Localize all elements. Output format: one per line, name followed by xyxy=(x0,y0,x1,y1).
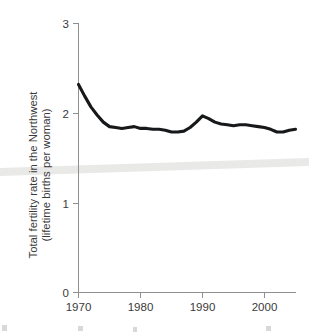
scan-artifact-speck-2 xyxy=(78,326,83,331)
fertility-rate-chart: 3 2 1 0 1970 1980 1990 2000 Total fertil… xyxy=(0,0,309,332)
x-tick-label-1990: 1990 xyxy=(190,301,216,313)
y-tick-label-3: 3 xyxy=(63,18,69,30)
y-tick-label-0: 0 xyxy=(63,287,69,299)
y-axis-title-line2: (lifetime births per woman) xyxy=(40,108,52,241)
x-tick-label-1970: 1970 xyxy=(66,301,92,313)
scan-artifact-speck-1 xyxy=(2,325,7,331)
x-tick-label-1980: 1980 xyxy=(128,301,154,313)
x-tick-label-2000: 2000 xyxy=(252,301,278,313)
scan-artifact-speck-3 xyxy=(133,327,137,332)
chart-canvas: 3 2 1 0 1970 1980 1990 2000 Total fertil… xyxy=(0,0,309,332)
fertility-rate-line xyxy=(79,84,296,132)
scan-artifact-speck-4 xyxy=(266,326,271,331)
y-tick-label-1: 1 xyxy=(63,198,69,210)
y-axis-title-line1: Total fertility rate in the Northwest xyxy=(27,91,39,259)
y-tick-label-2: 2 xyxy=(63,108,69,120)
